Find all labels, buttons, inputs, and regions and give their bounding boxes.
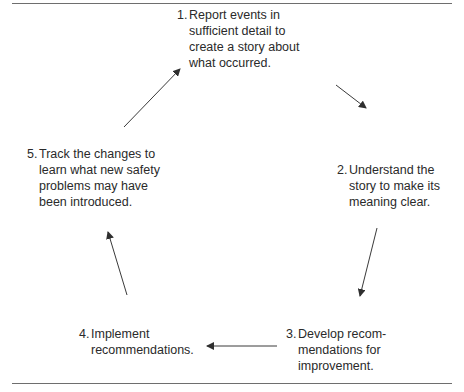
arrow-5-to-1 xyxy=(124,69,180,127)
arrow-1-to-2 xyxy=(336,85,366,108)
arrow-2-to-3 xyxy=(360,228,377,296)
bottom-rule xyxy=(12,383,452,384)
arrow-4-to-5 xyxy=(108,232,127,295)
cycle-arrows xyxy=(0,0,464,392)
